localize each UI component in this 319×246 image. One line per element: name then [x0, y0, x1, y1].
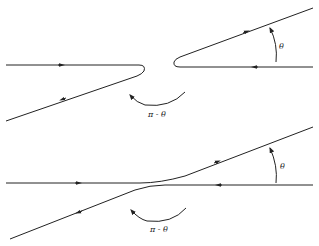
- deflection-arc: [130, 92, 185, 105]
- left-trajectory: [6, 65, 144, 121]
- theta-label: θ: [279, 42, 284, 51]
- deflection-arc: [131, 208, 186, 221]
- right-trajectory: [174, 8, 313, 67]
- theta-arc: [270, 148, 276, 183]
- arrow-icon: [214, 162, 218, 164]
- scattering-diagram: θ π - θ θ π - θ: [0, 0, 319, 246]
- theta-arc: [270, 28, 276, 62]
- upper-trajectory: [6, 127, 313, 183]
- arrow-icon: [62, 98, 66, 99]
- top-panel: θ π - θ: [6, 8, 313, 121]
- bottom-panel: θ π - θ: [6, 127, 313, 239]
- theta-label: θ: [280, 162, 285, 171]
- deflection-label: π - θ: [149, 225, 168, 234]
- deflection-label: π - θ: [147, 110, 166, 119]
- arrow-icon: [78, 211, 82, 213]
